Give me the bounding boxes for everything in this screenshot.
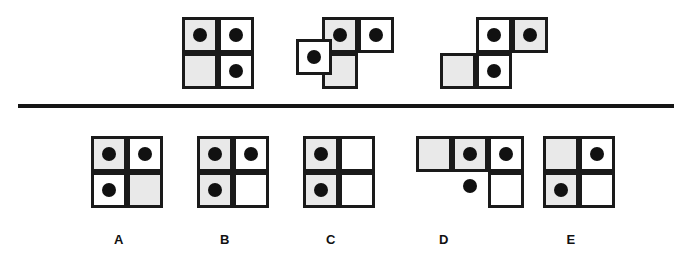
cell-bottom-right [218,53,254,89]
dot-icon [102,183,116,197]
cell-top-right [358,17,394,53]
cell-bottom-right [233,172,269,208]
dot-icon [523,28,537,42]
dot-icon [102,147,116,161]
cell-top-middle [476,17,512,53]
dot-icon [314,183,328,197]
cell-bottom-left [543,172,579,208]
cell-top-left [91,136,127,172]
cell-bottom-middle [476,53,512,89]
puzzle-root: ABCDE [0,0,692,272]
dot-icon [229,64,243,78]
dot-icon [229,28,243,42]
dot-icon [369,28,383,42]
cell-bottom-right [127,172,163,208]
cell-top-right [579,136,615,172]
cell-top-right [339,136,375,172]
cell-bottom-right [488,172,524,208]
option-letter-a[interactable]: A [99,232,139,247]
dot-icon [554,183,568,197]
dot-icon [333,28,347,42]
cell-top-middle [452,136,488,172]
cell-bottom-left [440,53,476,89]
dot-icon [499,147,513,161]
dot-icon [487,64,501,78]
cell-bottom-left [303,172,339,208]
cell-top-right [127,136,163,172]
option-letter-d[interactable]: D [424,232,464,247]
dot-icon [487,28,501,42]
cell-bottom-right [339,172,375,208]
loose-dot-below-middle [463,179,477,193]
option-letter-b[interactable]: B [205,232,245,247]
cell-top-left [416,136,452,172]
cell-top-left [182,17,218,53]
dot-icon [463,147,477,161]
cell-top-left [543,136,579,172]
dot-icon [208,147,222,161]
option-letter-e[interactable]: E [551,232,591,247]
cell-top-left [197,136,233,172]
dot-icon [244,147,258,161]
cell-top-right [218,17,254,53]
dot-icon [138,147,152,161]
cell-top-left [303,136,339,172]
section-divider [18,104,674,108]
cell-top-right [233,136,269,172]
cell-bottom-left [197,172,233,208]
dot-icon [590,147,604,161]
cell-bottom-left [91,172,127,208]
cell-detached-left [296,39,332,75]
dot-icon [314,147,328,161]
cell-bottom-left [182,53,218,89]
cell-top-right [512,17,548,53]
cell-top-right [488,136,524,172]
option-letter-c[interactable]: C [311,232,351,247]
dot-icon [208,183,222,197]
dot-icon [193,28,207,42]
cell-bottom-right [579,172,615,208]
dot-icon [307,50,321,64]
